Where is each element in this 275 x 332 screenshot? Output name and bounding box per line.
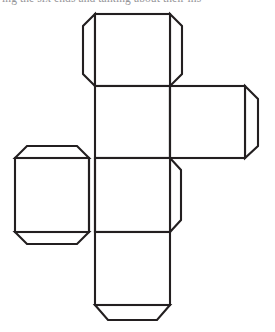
cube-net-figure <box>0 0 275 332</box>
tab-left-top <box>15 146 89 158</box>
tab-right-right <box>245 86 258 158</box>
face-top <box>95 14 170 86</box>
face-left <box>15 158 89 232</box>
tab-bottom-bottom <box>95 305 170 320</box>
tab-left-bottom <box>15 232 89 244</box>
face-upper-middle <box>95 86 170 158</box>
tab-top-left <box>83 14 95 86</box>
tab-top-right <box>170 14 182 86</box>
face-bottom <box>95 232 170 305</box>
face-right <box>170 86 245 158</box>
tab-lower-middle-right <box>170 158 181 232</box>
net-outline-group <box>15 14 258 320</box>
face-lower-middle <box>95 158 170 232</box>
figure-page: ing the six ends and talking about their… <box>0 0 275 332</box>
